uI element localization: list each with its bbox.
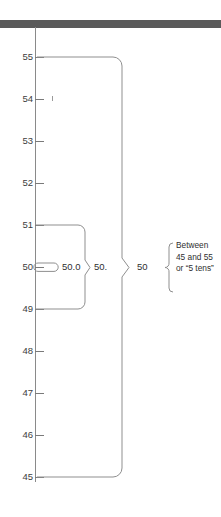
axis-tick-label-53: 53: [13, 136, 33, 146]
axis-tick-label-55: 55: [13, 52, 33, 62]
axis-tick-label-48: 48: [13, 346, 33, 356]
axis-tick-label-46: 46: [13, 430, 33, 440]
axis-tick-label-54: 54: [13, 94, 33, 104]
axis-tick-label-47: 47: [13, 388, 33, 398]
axis-tick-51: [35, 225, 44, 226]
axis-tick-47: [35, 393, 44, 394]
axis-tick-label-45: 45: [13, 472, 33, 482]
axis-tick-46: [35, 435, 44, 436]
diagram-canvas: 55 54 53 52 51 50 49 48 47 46 45 50.0 50…: [0, 0, 221, 517]
note-line-1: Between: [176, 240, 214, 252]
note-line-3: or “5 tens”: [176, 263, 214, 275]
capsule-label-50-0: 50.0: [62, 262, 81, 272]
axis-tick-50: [35, 267, 44, 268]
axis-tick-label-52: 52: [13, 178, 33, 188]
axis-tick-49: [35, 309, 44, 310]
axis-tick-52: [35, 183, 44, 184]
note-line-2: 45 and 55: [176, 252, 214, 264]
brace-label-50-point: 50.: [94, 262, 107, 272]
axis-tick-label-51: 51: [13, 220, 33, 230]
axis-tick-45: [35, 477, 44, 478]
brace-50-shape: [37, 57, 129, 477]
axis-tick-55: [35, 57, 44, 58]
range-explanation-note: Between 45 and 55 or “5 tens”: [176, 240, 214, 275]
brace-label-50: 50: [137, 262, 148, 272]
axis-line: [35, 27, 36, 482]
axis-tick-48: [35, 351, 44, 352]
axis-tick-53: [35, 141, 44, 142]
note-curly-brace: [165, 243, 173, 292]
axis-minor-tick: [52, 96, 53, 101]
header-bar: [0, 20, 221, 28]
axis-tick-54: [35, 99, 44, 100]
axis-tick-label-50: 50: [13, 262, 33, 272]
axis-tick-label-49: 49: [13, 304, 33, 314]
